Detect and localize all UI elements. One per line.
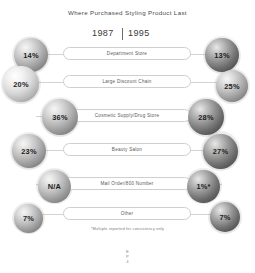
- sphere-value-left: 7%: [23, 214, 34, 223]
- category-label-pill: Beauty Salon: [63, 143, 191, 156]
- sphere-value-left: N/A: [48, 182, 61, 191]
- page-marker-line-3: 4: [0, 259, 255, 264]
- sphere-value-right: 25%: [224, 82, 239, 91]
- sphere-value-left: 23%: [21, 147, 36, 156]
- category-label-text: Other: [121, 211, 134, 216]
- sphere-value-left: 20%: [13, 80, 28, 89]
- category-label-text: Beauty Salon: [112, 147, 142, 152]
- data-sphere-left: 36%: [42, 99, 78, 135]
- category-label-text: Department Store: [107, 51, 147, 56]
- data-sphere-right: 28%: [188, 99, 224, 135]
- data-sphere-left: 23%: [12, 134, 46, 168]
- chart-container: Where Purchased Styling Product Last 198…: [0, 0, 255, 273]
- sphere-value-left: 14%: [23, 51, 38, 60]
- category-label-pill: Cosmetic Supply/Drug Store: [63, 109, 191, 122]
- sphere-value-right: 13%: [214, 51, 229, 60]
- category-label-text: Mail Order/800 Number: [100, 181, 153, 186]
- sphere-value-right: 28%: [198, 113, 213, 122]
- data-sphere-right: 7%: [210, 202, 240, 232]
- sphere-value-right: 1%*: [196, 182, 210, 191]
- data-sphere-left: 7%: [14, 204, 43, 233]
- data-sphere-right: 25%: [216, 70, 248, 102]
- category-label-text: Large Discount Chain: [102, 79, 151, 84]
- data-sphere-right: 27%: [203, 134, 238, 169]
- data-sphere-right: 13%: [205, 38, 239, 72]
- data-sphere-left: N/A: [38, 170, 71, 203]
- year-label-1995: 1995: [128, 28, 150, 38]
- page-title: Where Purchased Styling Product Last: [0, 9, 255, 16]
- data-sphere-left: 20%: [3, 66, 39, 102]
- chart-row: 36%28%Cosmetic Supply/Drug Store: [0, 100, 255, 134]
- chart-row: N/A1%*Mail Order/800 Number: [0, 168, 255, 202]
- chart-row: 23%27%Beauty Salon: [0, 134, 255, 168]
- year-label-1987: 1987: [92, 28, 114, 38]
- category-label-pill: Other: [63, 207, 191, 220]
- sphere-value-right: 27%: [213, 147, 228, 156]
- page-marker: E P 4: [0, 249, 255, 264]
- category-label-text: Cosmetic Supply/Drug Store: [95, 113, 159, 118]
- category-label-pill: Large Discount Chain: [63, 75, 191, 88]
- sphere-value-right: 7%: [219, 213, 230, 222]
- data-sphere-right: 1%*: [187, 170, 220, 203]
- category-label-pill: Department Store: [63, 47, 191, 60]
- sphere-value-left: 36%: [52, 113, 67, 122]
- category-label-pill: Mail Order/800 Number: [63, 177, 191, 190]
